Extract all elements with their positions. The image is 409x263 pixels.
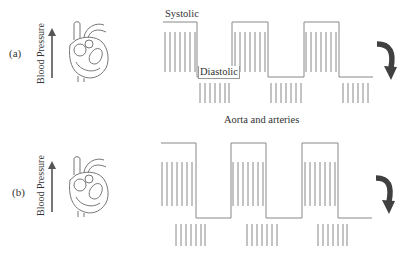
panel-b [48, 143, 395, 246]
caption-aorta-and-arteries: Aorta and arteries [224, 114, 299, 125]
diastolic-label: Diastolic [198, 66, 240, 79]
systolic-hatches-b [162, 162, 335, 206]
heart-icon [70, 22, 109, 82]
axis-label-blood-pressure-b: Blood Pressure [35, 155, 46, 216]
heart-icon [70, 157, 109, 217]
systolic-label: Systolic [165, 8, 199, 20]
panel-label-b: (b) [12, 186, 25, 198]
axis-label-blood-pressure-a: Blood Pressure [35, 23, 46, 84]
systolic-hatches-a [165, 32, 336, 72]
curved-arrow-icon-b [376, 178, 395, 214]
pressure-up-arrow-icon [48, 28, 56, 78]
panel-label-a: (a) [9, 47, 21, 59]
panel-a [48, 22, 397, 103]
diastolic-hatches-b [176, 224, 347, 246]
diastolic-hatches-a [200, 83, 368, 103]
pressure-up-arrow-icon [48, 161, 56, 212]
diagram-canvas [0, 0, 409, 263]
curved-arrow-icon-a [377, 44, 397, 80]
pressure-waveform-b [161, 143, 372, 218]
